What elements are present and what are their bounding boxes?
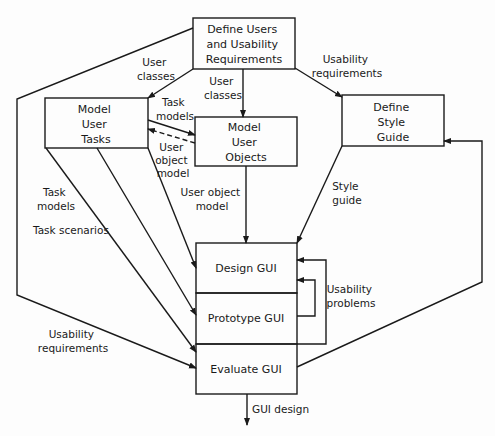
label-usability-req-top-1: Usability — [323, 53, 368, 65]
gui-design-process-diagram: Define Users and Usability Requirements … — [0, 0, 495, 436]
svg-text:Model User Tasks: Model User Tasks — [78, 103, 115, 146]
svg-text:User object model: User object model — [155, 141, 191, 179]
label-user-object-model-small-3: model — [157, 167, 190, 179]
svg-text:Usability problems: Usability problems — [327, 283, 376, 309]
label-user-classes-left-2: classes — [137, 70, 175, 82]
label-style-guide-2: guide — [332, 194, 361, 206]
svg-text:Task models: Task models — [156, 96, 194, 122]
design-gui-title: Design GUI — [215, 262, 276, 275]
svg-text:Task models: Task models — [37, 186, 75, 212]
label-user-object-model-small-2: object — [155, 154, 187, 166]
label-user-object-model-small-1: User — [159, 141, 184, 153]
svg-text:Define Users and Usability: Define Users and Usability Requirements — [206, 23, 283, 66]
label-task-models-top-1: Task — [161, 96, 186, 108]
style-guide-title-1: Define — [373, 101, 409, 114]
model-objects-title-2: User — [232, 136, 258, 149]
label-task-models-left-1: Task — [42, 186, 67, 198]
style-guide-title-3: Guide — [377, 131, 410, 144]
label-usability-req-top-2: requirements — [312, 67, 382, 79]
svg-text:Usability requirements: Usability requirements — [312, 53, 382, 79]
label-usability-req-bottom-2: requirements — [38, 342, 108, 354]
svg-text:User object model: User object model — [181, 186, 244, 212]
arrow-usability-problems-inner — [297, 280, 315, 316]
evaluate-gui-title: Evaluate GUI — [210, 363, 281, 376]
svg-text:Style guide: Style guide — [332, 180, 362, 206]
label-user-object-model-2: model — [196, 200, 229, 212]
svg-text:Usability requirements: Usability requirements — [38, 328, 108, 354]
label-usability-req-bottom-1: Usability — [49, 328, 94, 340]
model-tasks-title-1: Model — [78, 103, 111, 116]
define-users-title-2: and Usability — [206, 38, 278, 51]
prototype-gui-title: Prototype GUI — [208, 312, 284, 325]
label-style-guide-1: Style — [332, 180, 358, 192]
label-task-models-left-2: models — [37, 200, 75, 212]
label-task-scenarios: Task scenarios — [32, 224, 109, 236]
label-gui-design: GUI design — [252, 403, 309, 415]
arrow-evaluate-style-guide — [297, 141, 482, 367]
svg-text:Model User Objects: Model User Objects — [225, 121, 267, 164]
define-users-title-1: Define Users — [207, 23, 277, 36]
svg-text:User classes: User classes — [204, 75, 242, 101]
svg-text:User classes: User classes — [137, 56, 175, 82]
model-objects-title-3: Objects — [225, 151, 267, 164]
svg-text:Define Style Guide: Define Style Guide — [373, 101, 412, 144]
label-usability-problems-2: problems — [327, 297, 376, 309]
label-user-object-model-1: User object — [181, 186, 241, 198]
label-task-models-top-2: models — [156, 110, 194, 122]
label-user-classes-mid-1: User — [209, 75, 234, 87]
label-user-classes-left-1: User — [142, 56, 167, 68]
define-users-title-3: Requirements — [206, 53, 283, 66]
arrow-task-models — [148, 120, 195, 135]
arrow-tasks-design — [148, 148, 196, 268]
label-usability-problems-1: Usability — [327, 283, 372, 295]
model-objects-title-1: Model — [228, 121, 261, 134]
style-guide-title-2: Style — [377, 116, 405, 129]
model-tasks-title-2: User — [82, 118, 108, 131]
label-user-classes-mid-2: classes — [204, 89, 242, 101]
model-tasks-title-3: Tasks — [80, 133, 111, 146]
arrow-usability-problems-outer — [297, 260, 326, 344]
